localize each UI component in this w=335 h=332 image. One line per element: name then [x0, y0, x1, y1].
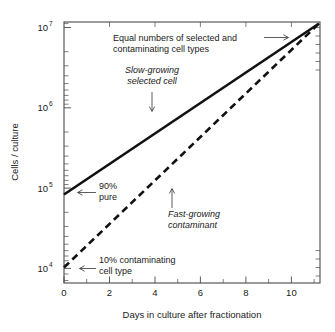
annotation-fast-growing: Fast-growing contaminant: [168, 189, 220, 231]
annotation-ninety-percent-pure-line1: 90%: [99, 181, 117, 191]
annotation-ten-percent-line2: cell type: [99, 266, 132, 276]
x-tick-label-6: 6: [198, 287, 203, 298]
y-tick-exponent: 5: [49, 181, 53, 188]
y-tick-exponent: 4: [49, 261, 53, 268]
x-tick-label-10: 10: [286, 287, 297, 298]
y-axis-title: Cells / culture: [9, 123, 20, 181]
y-tick-label-1e6: 10 6: [37, 100, 53, 113]
plot-frame: [64, 22, 320, 283]
y-tick-exponent: 7: [49, 20, 53, 27]
x-tick-label-8: 8: [243, 287, 248, 298]
y-tick-mantissa: 10: [37, 102, 48, 113]
annotation-ninety-percent-pure: 90% pure: [78, 181, 118, 202]
growth-curve-figure: 10 7 10 6 10 5 10 4: [0, 0, 335, 332]
annotation-ten-percent-line1: 10% contaminating: [99, 255, 176, 265]
x-tick-label-0: 0: [61, 287, 66, 298]
annotation-slow-growing-line1: Slow-growing: [125, 65, 179, 75]
annotation-slow-growing: Slow-growing selected cell: [125, 65, 179, 112]
annotation-fast-growing-line2: contaminant: [168, 220, 218, 230]
y-tick-exponent: 6: [49, 100, 53, 107]
y-tick-label-1e5: 10 5: [37, 181, 53, 194]
annotation-slow-growing-line2: selected cell: [127, 76, 178, 86]
chart-canvas: 10 7 10 6 10 5 10 4: [0, 0, 335, 332]
y-tick-mantissa: 10: [37, 183, 48, 194]
y-tick-mantissa: 10: [37, 263, 48, 274]
annotation-equal-numbers-line2: contaminating cell types: [113, 44, 210, 54]
top-axis-ticks: [110, 22, 292, 27]
annotation-ten-percent-contaminating: 10% contaminating cell type: [80, 255, 176, 276]
y-axis-ticks: [64, 23, 71, 280]
annotation-equal-numbers-line1: Equal numbers of selected and: [113, 33, 237, 43]
y-tick-label-1e4: 10 4: [37, 261, 53, 274]
x-axis-ticks: [64, 277, 314, 284]
x-tick-label-4: 4: [152, 287, 157, 298]
y-tick-mantissa: 10: [37, 22, 48, 33]
x-tick-label-2: 2: [107, 287, 112, 298]
annotation-fast-growing-line1: Fast-growing: [168, 209, 220, 219]
annotation-ninety-percent-pure-line2: pure: [99, 192, 117, 202]
x-axis-title: Days in culture after fractionation: [123, 309, 262, 320]
annotation-equal-numbers: Equal numbers of selected and contaminat…: [113, 33, 289, 54]
y-tick-label-1e7: 10 7: [37, 20, 53, 33]
right-axis-ticks: [316, 28, 321, 277]
series-fast-growing-contaminant: [64, 24, 319, 268]
